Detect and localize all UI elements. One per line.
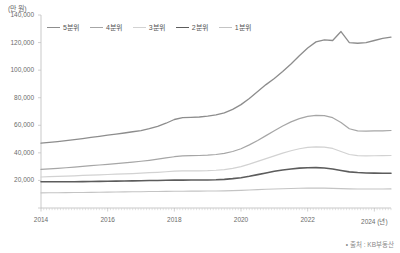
source-note: • 출처 : KB부동산 bbox=[346, 239, 394, 249]
y-tick-label-40000: 40,000 bbox=[0, 149, 34, 156]
series-line-4 bbox=[41, 188, 391, 193]
y-tick-label-60000: 60,000 bbox=[0, 121, 34, 128]
y-tick-label-20000: 20,000 bbox=[0, 176, 34, 183]
x-tick-label-2018: 2018 bbox=[152, 216, 196, 223]
y-tick-label-80000: 80,000 bbox=[0, 94, 34, 101]
x-tick-label-2014: 2014 bbox=[19, 216, 63, 223]
x-tick-label-2022: 2022 bbox=[286, 216, 330, 223]
y-tick-label-120000: 120,000 bbox=[0, 39, 34, 46]
x-tick-label-2024: 2024 (년) bbox=[352, 216, 396, 226]
quintile-price-line-chart: (만 원) 5분위 4분위 3분위 2분위 1분위 20,00040,00060… bbox=[0, 0, 400, 253]
y-tick-label-100000: 100,000 bbox=[0, 66, 34, 73]
x-tick-label-2020: 2020 bbox=[219, 216, 263, 223]
x-tick-label-2016: 2016 bbox=[86, 216, 130, 223]
y-tick-label-140000: 140,000 bbox=[0, 11, 34, 18]
series-line-0 bbox=[41, 32, 391, 144]
series-line-1 bbox=[41, 115, 391, 169]
series-line-2 bbox=[41, 147, 391, 177]
